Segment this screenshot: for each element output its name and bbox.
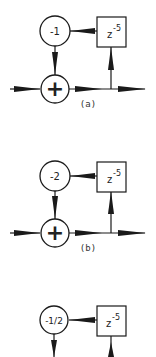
caption: (a) (80, 99, 96, 109)
left-arrow-icon (70, 28, 95, 34)
input-arrow-icon (14, 230, 40, 236)
caption: (b) (80, 243, 96, 253)
delay-base: z (107, 174, 112, 185)
up-arrow-icon (108, 342, 114, 357)
diagram-c: z -5 -1/2 (40, 306, 126, 357)
diagram-b: + z -5 -2 (b) (10, 161, 146, 253)
down-arrow-icon (51, 340, 57, 357)
down-arrow-icon (52, 196, 58, 219)
delay-exponent: -5 (113, 24, 121, 33)
forward-arrow-icon (75, 86, 102, 92)
input-arrow-icon (14, 86, 40, 92)
adder-plus-icon: + (46, 220, 64, 245)
down-arrow-icon (52, 52, 58, 75)
delay-base: z (106, 318, 111, 329)
up-arrow-icon (108, 47, 114, 70)
delay-base: z (107, 29, 112, 40)
gain-value: -1/2 (45, 316, 63, 326)
forward-arrow-icon (75, 230, 102, 236)
left-arrow-icon (69, 317, 95, 323)
up-arrow-icon (108, 191, 114, 214)
output-arrow-icon (118, 86, 146, 92)
gain-value: -1 (50, 26, 60, 37)
gain-value: -2 (50, 171, 60, 182)
comb-filter-diagrams: + z -5 -1 (a) + z -5 (0, 0, 156, 357)
delay-exponent: -5 (113, 169, 121, 178)
diagram-a: + z -5 -1 (a) (10, 16, 146, 109)
left-arrow-icon (70, 173, 95, 179)
delay-exponent: -5 (112, 313, 120, 322)
output-arrow-icon (118, 230, 146, 236)
adder-plus-icon: + (46, 76, 64, 101)
